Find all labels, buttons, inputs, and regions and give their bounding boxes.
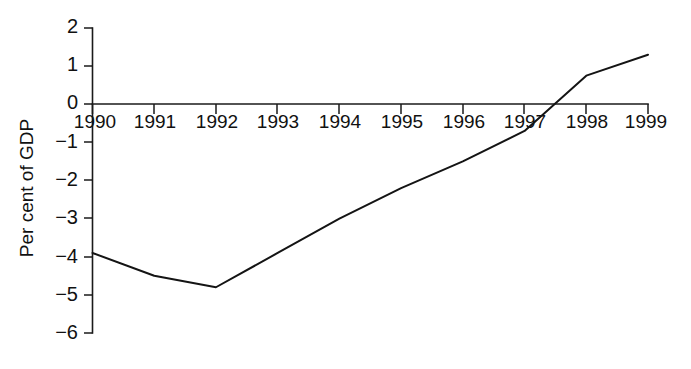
y-axis-title: Per cent of GDP: [16, 119, 37, 257]
line-chart: 2 1 0 −1 −2 −3 −4 −5 −6 1990 1991 1992 1…: [0, 0, 691, 369]
y-tick-label: 2: [67, 15, 78, 37]
y-tick-label: −6: [55, 321, 78, 343]
x-tick-label: 1991: [134, 111, 176, 132]
chart-figure: 2 1 0 −1 −2 −3 −4 −5 −6 1990 1991 1992 1…: [0, 0, 691, 369]
y-tick-label: −5: [55, 283, 78, 305]
x-tick-label: 1990: [74, 111, 116, 132]
x-tick-label: 1995: [381, 111, 423, 132]
y-tick-label: 1: [67, 53, 78, 75]
x-tick-label: 1998: [566, 111, 608, 132]
y-tick-label: −2: [55, 168, 78, 190]
x-tick-labels: 1990 1991 1992 1993 1994 1995 1996 1997 …: [74, 111, 667, 132]
x-tick-label: 1997: [504, 111, 546, 132]
x-tick-label: 1994: [319, 111, 362, 132]
y-tick-label: −3: [55, 206, 78, 228]
y-tick-label: −4: [55, 245, 78, 267]
x-tick-label: 1999: [625, 111, 667, 132]
y-tick-labels: 2 1 0 −1 −2 −3 −4 −5 −6: [55, 15, 78, 343]
y-tick-label: −1: [55, 130, 78, 152]
x-tick-label: 1993: [257, 111, 299, 132]
x-tick-label: 1992: [196, 111, 238, 132]
data-series-line: [93, 55, 649, 288]
x-tick-label: 1996: [443, 111, 485, 132]
y-tick-marks: [84, 28, 93, 333]
